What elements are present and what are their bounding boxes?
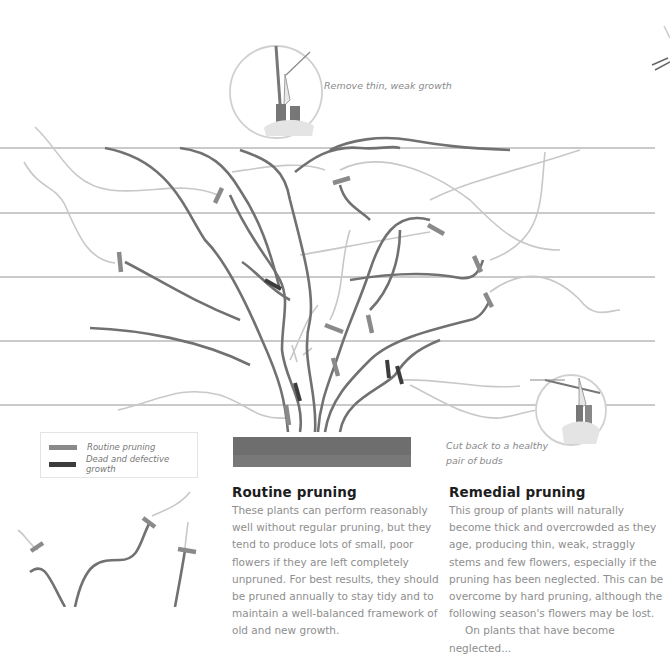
young-growth <box>24 127 620 418</box>
remedial-pruning-body-cont: On plants that have become neglected... <box>449 622 669 656</box>
caption-cut-back-line1: Cut back to a healthy <box>446 438 548 453</box>
caption-remove-thin-growth: Remove thin, weak growth <box>324 78 452 93</box>
remedial-pruning-body: This group of plants will naturally beco… <box>449 502 669 622</box>
remedial-pruning-heading: Remedial pruning <box>449 484 669 500</box>
callout-circle-right <box>530 375 606 445</box>
dead-swatch-icon <box>49 462 76 467</box>
routine-pruning-heading: Routine pruning <box>232 484 444 500</box>
trellis-wires <box>0 148 655 405</box>
legend-label: Dead and defective growth <box>86 454 197 474</box>
routine-swatch-icon <box>49 445 77 450</box>
legend-item-dead: Dead and defective growth <box>49 457 197 471</box>
legend-label: Routine pruning <box>87 442 155 452</box>
partial-callout-right-edge <box>652 26 670 70</box>
routine-pruning-section: Routine pruning These plants can perform… <box>232 484 444 640</box>
routine-pruning-body: These plants can perform reasonably well… <box>232 502 444 640</box>
lower-young-growth <box>18 492 190 550</box>
remedial-pruning-section: Remedial pruning This group of plants wi… <box>449 484 669 657</box>
legend-item-routine: Routine pruning <box>49 440 155 454</box>
legend: Routine pruning Dead and defective growt… <box>40 432 198 478</box>
caption-cut-back-line2: pair of buds <box>446 453 503 468</box>
callout-circle-top <box>230 46 322 138</box>
